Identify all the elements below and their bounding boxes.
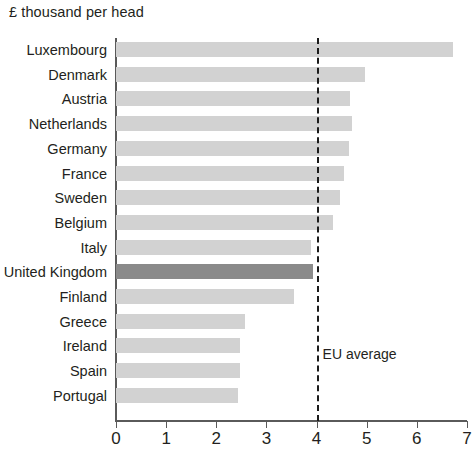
bar-row: Sweden	[116, 190, 467, 215]
x-tick-label: 4	[307, 429, 327, 449]
bar-category-label: Netherlands	[0, 116, 107, 132]
bar-row: United Kingdom	[116, 264, 467, 289]
bar-category-label: Finland	[0, 289, 107, 305]
bar	[116, 314, 245, 329]
bar	[116, 264, 313, 279]
bar-chart: £ thousand per head LuxembourgDenmarkAus…	[0, 0, 473, 455]
bar-category-label: Italy	[0, 240, 107, 256]
bar	[116, 190, 340, 205]
bar-category-label: Luxembourg	[0, 42, 107, 58]
eu-average-label: EU average	[323, 346, 397, 362]
chart-title: £ thousand per head	[9, 4, 144, 20]
bar-row: Finland	[116, 289, 467, 314]
bar	[116, 289, 294, 304]
bar-category-label: United Kingdom	[0, 264, 107, 280]
bar	[116, 240, 311, 255]
bar-row: Belgium	[116, 215, 467, 240]
x-tick-label: 2	[206, 429, 226, 449]
x-tick-mark	[467, 421, 468, 428]
bar-category-label: Germany	[0, 141, 107, 157]
bar-category-label: Ireland	[0, 338, 107, 354]
x-tick-mark	[166, 421, 167, 428]
bar	[116, 338, 240, 353]
bar	[116, 388, 238, 403]
bar-row: Luxembourg	[116, 42, 467, 67]
bar	[116, 42, 453, 57]
x-tick-mark	[317, 421, 318, 428]
eu-average-line	[317, 38, 319, 421]
x-tick-mark	[266, 421, 267, 428]
x-tick-label: 7	[457, 429, 473, 449]
x-tick-mark	[116, 421, 117, 428]
bar-row: Netherlands	[116, 116, 467, 141]
bar	[116, 166, 344, 181]
bar-row: Portugal	[116, 388, 467, 413]
bar-category-label: Greece	[0, 314, 107, 330]
bar-row: Spain	[116, 363, 467, 388]
x-tick-mark	[216, 421, 217, 428]
bar-row: Denmark	[116, 67, 467, 92]
x-tick-mark	[367, 421, 368, 428]
bar	[116, 215, 333, 230]
bar-category-label: Belgium	[0, 215, 107, 231]
bar-row: Ireland	[116, 338, 467, 363]
bar-row: France	[116, 166, 467, 191]
bar-category-label: Spain	[0, 363, 107, 379]
bar	[116, 91, 350, 106]
bar	[116, 363, 240, 378]
x-tick-label: 0	[106, 429, 126, 449]
bar-row: Austria	[116, 91, 467, 116]
bar-category-label: Sweden	[0, 190, 107, 206]
bar-category-label: Portugal	[0, 388, 107, 404]
bar	[116, 141, 349, 156]
x-tick-label: 1	[156, 429, 176, 449]
bar	[116, 67, 365, 82]
x-tick-label: 5	[357, 429, 377, 449]
plot-area: LuxembourgDenmarkAustriaNetherlandsGerma…	[116, 38, 467, 421]
x-tick-label: 3	[256, 429, 276, 449]
x-tick-label: 6	[407, 429, 427, 449]
bar-category-label: Denmark	[0, 67, 107, 83]
bar-row: Germany	[116, 141, 467, 166]
bar-row: Greece	[116, 314, 467, 339]
bar-category-label: Austria	[0, 91, 107, 107]
x-tick-mark	[417, 421, 418, 428]
bar-category-label: France	[0, 166, 107, 182]
bar-row: Italy	[116, 240, 467, 265]
